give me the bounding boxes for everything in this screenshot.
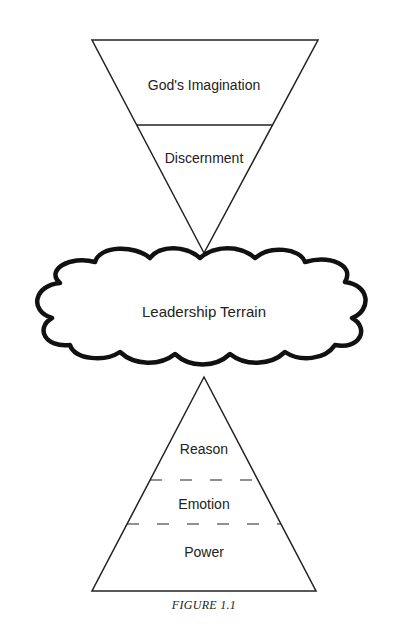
label-power: Power: [104, 544, 304, 560]
label-reason: Reason: [104, 441, 304, 457]
label-discernment: Discernment: [104, 150, 304, 166]
top-inverted-triangle: [92, 40, 318, 253]
label-gods-imagination: God's Imagination: [104, 77, 304, 93]
figure-caption: FIGURE 1.1: [104, 598, 304, 613]
label-emotion: Emotion: [104, 496, 304, 512]
label-leadership-terrain: Leadership Terrain: [104, 303, 304, 320]
